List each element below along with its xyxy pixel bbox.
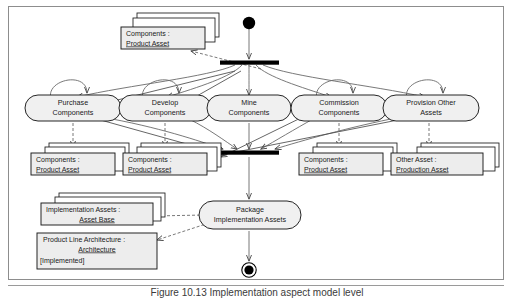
artifact-provision-output-type: Production Asset <box>396 166 449 173</box>
activity-purchase-components-line1: Purchase <box>58 98 88 107</box>
artifact-commission-output-type: Product Asset <box>304 166 347 173</box>
artifact-implementation-assets-type: Asset Base <box>79 216 115 223</box>
artifact-purchase-output[interactable]: Components : Product Asset <box>31 143 129 175</box>
edge-fork-to-commission <box>256 65 331 97</box>
activity-package-line2: Implementation Assets <box>214 215 287 224</box>
fork-bar <box>220 61 279 65</box>
artifact-provision-output[interactable]: Other Asset : Production Asset <box>391 143 499 175</box>
activity-purchase-components[interactable]: Purchase Components <box>25 95 121 121</box>
edge-fork-to-develop <box>167 65 242 97</box>
activity-purchase-components-line2: Components <box>53 108 94 117</box>
artifact-develop-output[interactable]: Components : Product Asset <box>123 143 221 175</box>
artifact-top-components-type: Product Asset <box>126 40 169 47</box>
artifact-product-line-architecture-type: Architecture <box>78 246 115 253</box>
artifact-top-components-name: Components : <box>126 30 170 38</box>
activity-package-implementation-assets[interactable]: Package Implementation Assets <box>199 201 301 229</box>
activity-package-line1: Package <box>236 205 264 214</box>
artifact-commission-output-name: Components : <box>304 156 348 164</box>
edge-package-to-product-line-architecture <box>157 223 209 240</box>
artifact-develop-output-type: Product Asset <box>128 166 171 173</box>
activity-diagram-canvas: Purchase Components Develop Components M… <box>9 7 503 279</box>
activity-provision-other-assets-line2: Assets <box>420 108 442 117</box>
activity-provision-other-assets[interactable]: Provision Other Assets <box>383 95 479 121</box>
activity-commission-components-line2: Components <box>319 108 360 117</box>
artifact-purchase-output-name: Components : <box>36 156 80 164</box>
activity-develop-components-line2: Components <box>145 108 186 117</box>
activity-mine-components-line2: Components <box>229 108 270 117</box>
activity-final-node <box>242 263 256 277</box>
activity-develop-components[interactable]: Develop Components <box>119 95 211 121</box>
activity-commission-components-line1: Commission <box>319 98 359 107</box>
artifact-commission-output[interactable]: Components : Product Asset <box>299 143 397 175</box>
artifact-product-line-architecture[interactable]: Product Line Architecture : Architecture… <box>37 233 157 269</box>
artifact-product-line-architecture-name: Product Line Architecture : <box>43 236 125 243</box>
artifact-top-components[interactable]: Components : Product Asset <box>121 13 219 49</box>
figure-caption: Figure 10.13 Implementation aspect model… <box>0 287 514 298</box>
artifact-provision-output-name: Other Asset : <box>396 156 437 163</box>
initial-node <box>243 17 255 29</box>
artifact-purchase-output-type: Product Asset <box>36 166 79 173</box>
activity-mine-components-line1: Mine <box>241 98 257 107</box>
activity-develop-components-line1: Develop <box>152 98 178 107</box>
artifact-develop-output-name: Components : <box>128 156 172 164</box>
activity-mine-components[interactable]: Mine Components <box>207 95 291 121</box>
edge-top-artifact-dashed-return <box>191 51 261 69</box>
artifact-implementation-assets-name: Implementation Assets : <box>46 206 120 214</box>
artifact-product-line-architecture-state: [Implemented] <box>40 257 84 265</box>
artifact-implementation-assets[interactable]: Implementation Assets : Asset Base <box>41 193 165 225</box>
figure-page: Purchase Components Develop Components M… <box>0 0 514 299</box>
diagram-frame: Purchase Components Develop Components M… <box>8 6 504 280</box>
join-bar <box>220 151 279 155</box>
activity-commission-components[interactable]: Commission Components <box>291 95 387 121</box>
activity-provision-other-assets-line1: Provision Other <box>406 98 456 107</box>
caption-divider <box>8 285 504 286</box>
